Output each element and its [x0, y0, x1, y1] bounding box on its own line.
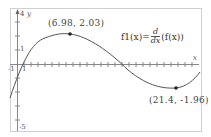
- y-tick-label: 1: [20, 46, 24, 53]
- graph-frame: [11, 9, 202, 132]
- y-max-label: 4: [20, 11, 24, 18]
- y-axis-arrow-icon: [16, 9, 20, 14]
- x-axis-label: x: [193, 55, 197, 62]
- y-axis-label: y: [27, 11, 31, 18]
- derivative-fraction: d dx: [151, 28, 161, 46]
- function-name: f1(x): [121, 32, 142, 42]
- function-definition[interactable]: f1(x) = d dx (f(x)): [121, 28, 184, 46]
- x-pos-label: 1: [22, 66, 26, 73]
- derivative-denominator: dx: [151, 37, 161, 46]
- y-min-label: -5: [19, 124, 26, 131]
- minimum-point-label: (21.4, -1.96): [149, 96, 209, 105]
- maximum-point[interactable]: [68, 32, 72, 36]
- derivative-argument: (f(x)): [161, 32, 183, 42]
- equals-sign: =: [142, 32, 150, 42]
- minimum-point[interactable]: [174, 86, 178, 90]
- x-neg-label: -1: [8, 66, 15, 73]
- maximum-point-label: (6.98, 2.03): [48, 19, 104, 28]
- graph-canvas[interactable]: [0, 0, 211, 137]
